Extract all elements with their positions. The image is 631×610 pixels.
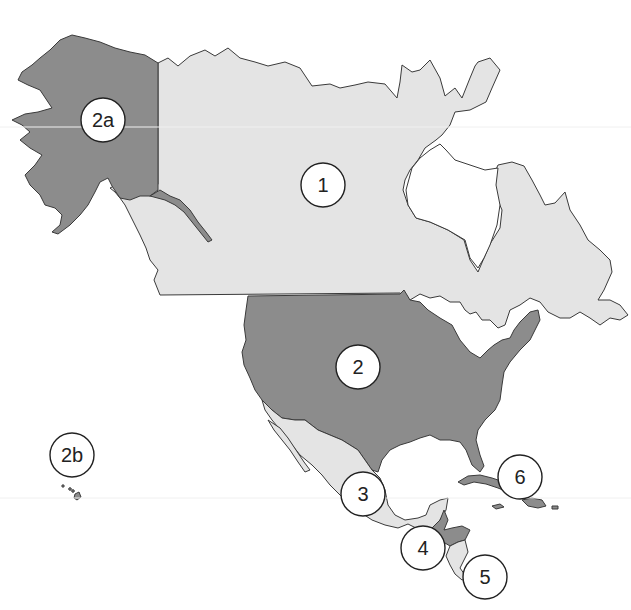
marker-1[interactable]: 1	[301, 163, 345, 207]
marker-1-label: 1	[317, 174, 328, 196]
marker-2[interactable]: 2	[336, 345, 380, 389]
marker-5-label: 5	[479, 566, 490, 588]
hispaniola	[522, 498, 546, 508]
marker-6[interactable]: 6	[498, 455, 542, 499]
canada-mainland	[110, 48, 628, 328]
marker-2-label: 2	[352, 356, 363, 378]
hawaii-island-2	[69, 488, 72, 491]
marker-4-label: 4	[417, 537, 428, 559]
marker-4[interactable]: 4	[401, 526, 445, 570]
marker-5[interactable]: 5	[463, 555, 507, 599]
marker-3[interactable]: 3	[341, 472, 385, 516]
marker-2a-label: 2a	[92, 109, 115, 131]
region-canada[interactable]	[110, 48, 628, 328]
hawaii-big-island	[74, 492, 81, 500]
marker-2b[interactable]: 2b	[50, 433, 94, 477]
marker-2b-label: 2b	[61, 444, 83, 466]
hawaii-island-3	[72, 490, 75, 493]
jamaica	[492, 504, 504, 509]
north-america-map: 1 2 2a 2b 3 4 5 6	[0, 0, 631, 610]
marker-6-label: 6	[514, 466, 525, 488]
puerto-rico	[552, 506, 558, 509]
marker-2a[interactable]: 2a	[81, 98, 125, 142]
hawaii-island-1	[62, 485, 64, 487]
marker-3-label: 3	[357, 483, 368, 505]
